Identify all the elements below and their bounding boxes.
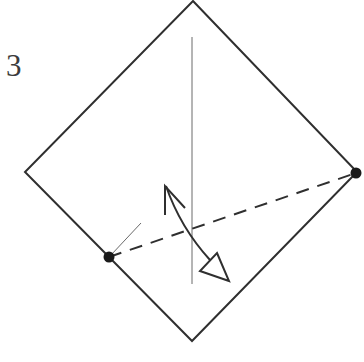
- arrowhead-open-icon: [165, 186, 185, 215]
- diagram-canvas: [0, 0, 364, 362]
- right-reference-dot: [351, 168, 362, 179]
- fold-arrow-curve: [166, 186, 210, 260]
- paper-square-outline: [25, 1, 357, 341]
- left-reference-dot: [104, 252, 115, 263]
- clipped-caption: …: [0, 354, 364, 362]
- arrowhead-hollow-triangle-icon: [200, 253, 229, 281]
- origami-step-diagram: 3 …: [0, 0, 364, 362]
- guide-line: [111, 223, 141, 255]
- valley-fold-dashed-line: [109, 173, 356, 257]
